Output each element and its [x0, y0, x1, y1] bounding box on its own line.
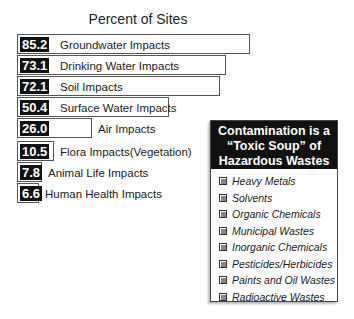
bar-label: Air Impacts: [98, 121, 156, 137]
list-item: Inorganic Chemicals: [219, 239, 337, 256]
list-item-label: Paints and Oil Wastes: [232, 274, 335, 286]
bar-label: Groundwater Impacts: [60, 37, 170, 53]
bar-soil: 72.1 Soil Impacts: [17, 76, 220, 96]
list-item-label: Inorganic Chemicals: [232, 241, 327, 253]
chart-title: Percent of Sites: [0, 11, 276, 27]
callout-title-line: Hazardous Wastes: [213, 154, 335, 169]
bar-value: 7.8: [20, 165, 42, 180]
list-item: Solvents: [219, 190, 337, 207]
list-item-label: Municipal Wastes: [232, 225, 314, 237]
waste-list: Heavy Metals Solvents Organic Chemicals …: [211, 169, 337, 305]
list-item: Paints and Oil Wastes: [219, 272, 337, 289]
list-item: Heavy Metals: [219, 173, 337, 190]
bar-air: 26.0 Air Impacts: [17, 118, 92, 138]
list-item-label: Organic Chemicals: [232, 208, 321, 220]
bar-value: 85.2: [20, 37, 49, 52]
square-bullet-icon: [219, 227, 227, 235]
square-bullet-icon: [219, 210, 227, 218]
callout-title-line: Contamination is a: [213, 124, 335, 139]
bar-surface-water: 50.4 Surface Water Impacts: [17, 97, 169, 117]
bar-label: Human Health Impacts: [45, 186, 162, 202]
bar-drinking-water: 73.1 Drinking Water Impacts: [17, 55, 226, 75]
list-item-label: Heavy Metals: [232, 175, 296, 187]
bar-value: 73.1: [20, 58, 49, 73]
list-item: Municipal Wastes: [219, 223, 337, 240]
list-item-label: Radioactive Wastes: [232, 291, 325, 303]
list-item: Pesticides/Herbicides: [219, 256, 337, 273]
bar-value: 26.0: [20, 121, 49, 136]
square-bullet-icon: [219, 177, 227, 185]
list-item: Organic Chemicals: [219, 206, 337, 223]
list-item: Radioactive Wastes: [219, 289, 337, 306]
callout-title: Contamination is a “Toxic Soup” of Hazar…: [211, 121, 337, 169]
bar-value: 50.4: [20, 100, 49, 115]
bar-label: Surface Water Impacts: [60, 100, 177, 116]
bar-flora: 10.5 Flora Impacts(Vegetation): [17, 141, 54, 161]
bar-groundwater: 85.2 Groundwater Impacts: [17, 34, 250, 54]
list-item-label: Solvents: [232, 192, 272, 204]
bar-label: Soil Impacts: [60, 79, 123, 95]
square-bullet-icon: [219, 243, 227, 251]
bar-label: Flora Impacts(Vegetation): [60, 144, 192, 160]
bar-value: 72.1: [20, 79, 49, 94]
square-bullet-icon: [219, 194, 227, 202]
bar-human-health: 6.6 Human Health Impacts: [17, 183, 39, 203]
square-bullet-icon: [219, 293, 227, 301]
bar-label: Animal Life Impacts: [48, 165, 148, 181]
callout-title-line: “Toxic Soup” of: [213, 139, 335, 154]
bar-label: Drinking Water Impacts: [60, 58, 179, 74]
bar-value: 6.6: [20, 186, 42, 201]
bar-value: 10.5: [20, 144, 49, 159]
square-bullet-icon: [219, 260, 227, 268]
toxic-soup-callout: Contamination is a “Toxic Soup” of Hazar…: [210, 120, 338, 302]
square-bullet-icon: [219, 276, 227, 284]
bar-animal-life: 7.8 Animal Life Impacts: [17, 162, 42, 182]
list-item-label: Pesticides/Herbicides: [232, 258, 332, 270]
